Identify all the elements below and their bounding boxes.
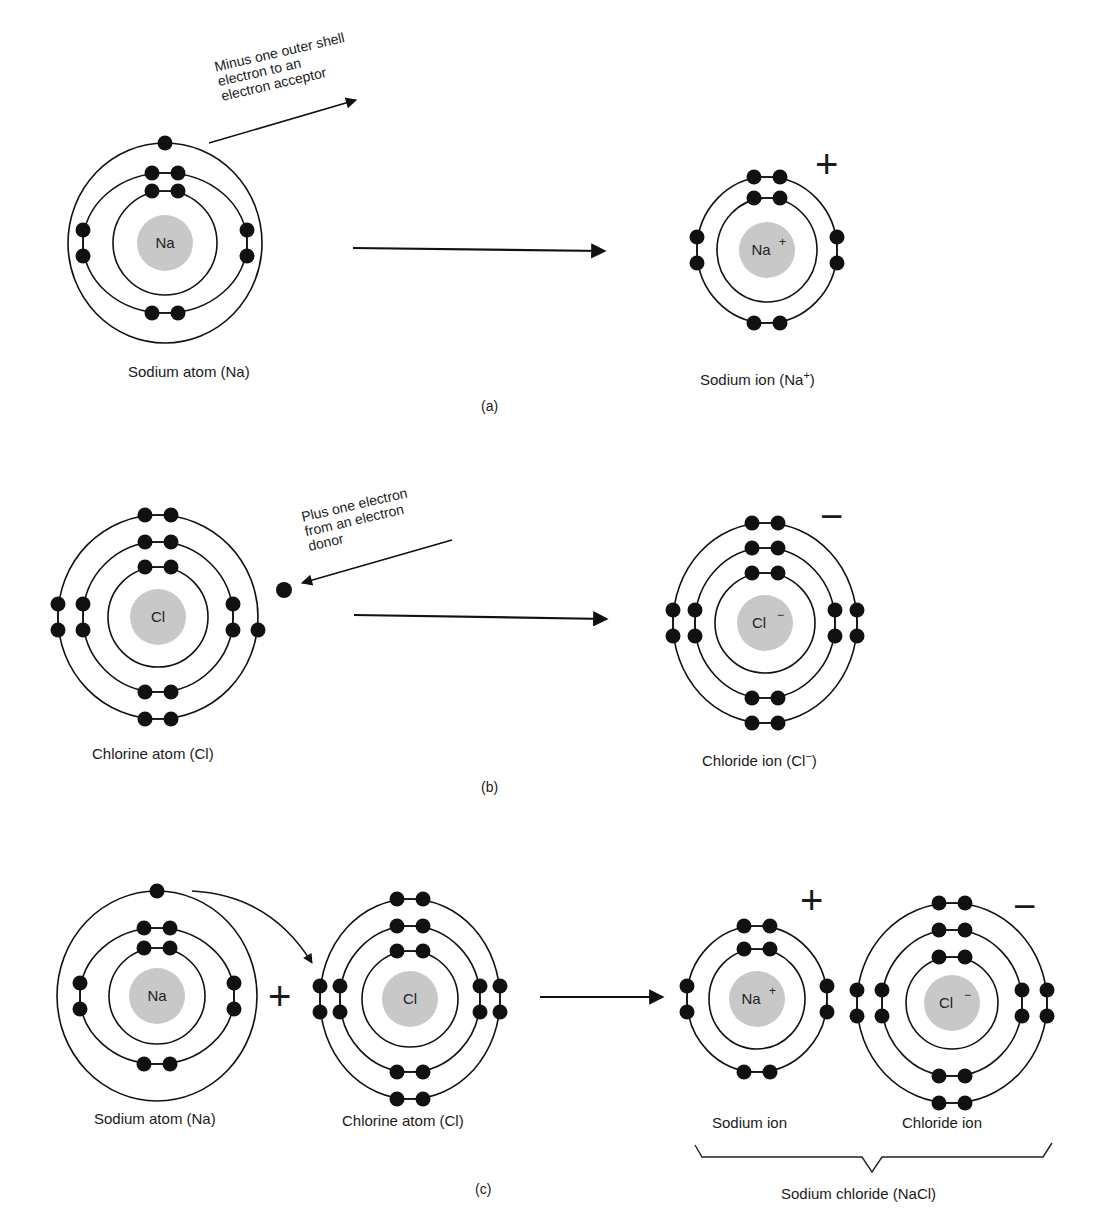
electron <box>150 884 165 899</box>
electron <box>158 136 173 151</box>
chloride-ion-b: Cl− <box>666 516 865 731</box>
panel-a-caption: (a) <box>481 398 498 414</box>
ion-charge: − <box>777 608 784 622</box>
sodium-ion-label-c: Sodium ion <box>712 1114 787 1131</box>
reaction-arrow-b <box>354 615 607 619</box>
electron-loss-arrow <box>209 100 356 143</box>
element-symbol: Cl <box>752 614 766 631</box>
positive-charge-sign-c: + <box>800 878 823 923</box>
element-symbol: Na <box>155 234 175 251</box>
sodium-ion-a: Na+ <box>690 170 845 331</box>
sodium-atom-label-c: Sodium atom (Na) <box>94 1110 216 1127</box>
sodium-atom-label-a: Sodium atom (Na) <box>128 363 250 380</box>
positive-charge-sign-a: + <box>815 142 838 187</box>
electron <box>251 623 266 638</box>
chloride-ion-label-b: Chloride ion (Cl−) <box>702 750 817 769</box>
element-symbol: Cl <box>151 608 165 625</box>
element-symbol: Cl <box>939 994 953 1011</box>
sodium-chloride-label: Sodium chloride (NaCl) <box>781 1185 936 1202</box>
ionic-bond-diagram: NaNa+ClCl−NaClNa+Cl− Minus one outer she… <box>0 0 1107 1230</box>
sodium-atom-a: Na <box>68 136 262 344</box>
sodium-atom-c: Na <box>57 884 257 1102</box>
negative-charge-sign-b: − <box>820 494 843 539</box>
ion-charge: + <box>779 235 786 249</box>
compound-bracket <box>695 1143 1052 1172</box>
panel-b-caption: (b) <box>481 779 498 795</box>
element-symbol: Na <box>147 987 167 1004</box>
chlorine-atom-label-c: Chlorine atom (Cl) <box>342 1112 464 1129</box>
element-symbol: Cl <box>403 990 417 1007</box>
sodium-ion-c: Na+ <box>680 919 835 1080</box>
electron-transfer-arrow <box>192 891 312 963</box>
chlorine-atom-b: Cl <box>51 508 266 727</box>
free-electron <box>276 582 292 598</box>
panel-c-caption: (c) <box>475 1181 491 1197</box>
reaction-arrow-a <box>353 248 605 251</box>
element-symbol: Na <box>751 241 771 258</box>
sodium-ion-label-a: Sodium ion (Na+) <box>700 369 815 388</box>
plus-sign-c: + <box>268 974 291 1019</box>
ion-charge: + <box>769 984 776 998</box>
chlorine-atom-label-b: Chlorine atom (Cl) <box>92 745 214 762</box>
negative-charge-sign-c: − <box>1013 884 1036 929</box>
diagram-canvas: NaNa+ClCl−NaClNa+Cl− <box>0 0 1107 1230</box>
chloride-ion-label-c: Chloride ion <box>902 1114 982 1131</box>
chlorine-atom-c: Cl <box>313 892 508 1107</box>
ion-charge: − <box>964 988 971 1002</box>
element-symbol: Na <box>741 990 761 1007</box>
